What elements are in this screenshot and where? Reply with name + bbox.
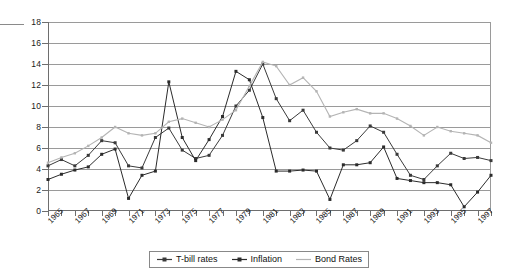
legend-marker-icon bbox=[295, 255, 312, 264]
data-point-marker bbox=[436, 181, 439, 184]
data-point-marker bbox=[114, 141, 117, 144]
data-point-marker bbox=[490, 142, 492, 144]
data-point-marker bbox=[449, 152, 452, 155]
y-axis-tick-label: 10 bbox=[31, 101, 41, 111]
data-point-marker bbox=[60, 173, 63, 176]
data-point-marker bbox=[194, 122, 196, 124]
data-point-marker bbox=[355, 163, 358, 166]
data-point-marker bbox=[409, 174, 412, 177]
data-point-marker bbox=[127, 197, 130, 200]
data-point-marker bbox=[114, 126, 116, 128]
data-point-marker bbox=[235, 109, 237, 111]
data-point-marker bbox=[47, 162, 49, 164]
data-point-marker bbox=[101, 136, 103, 138]
data-point-marker bbox=[140, 166, 143, 169]
data-point-marker bbox=[476, 191, 479, 194]
y-axis-tick-label: 6 bbox=[36, 143, 41, 153]
data-point-marker bbox=[234, 70, 237, 73]
data-point-marker bbox=[342, 163, 345, 166]
chart-container: 024681012141618 196519671969197119731975… bbox=[0, 0, 517, 275]
legend-label: Inflation bbox=[251, 254, 283, 264]
data-point-marker bbox=[422, 178, 425, 181]
data-point-marker bbox=[450, 130, 452, 132]
data-point-marker bbox=[382, 131, 385, 134]
data-point-marker bbox=[328, 198, 331, 201]
y-axis-tick-label: 8 bbox=[36, 122, 41, 132]
series-line-inflation bbox=[48, 71, 491, 206]
data-point-marker bbox=[369, 161, 372, 164]
legend-marker-icon bbox=[156, 255, 173, 264]
data-point-marker bbox=[396, 177, 399, 180]
data-point-marker bbox=[396, 117, 398, 119]
data-point-marker bbox=[74, 152, 76, 154]
data-point-marker bbox=[369, 124, 372, 127]
y-axis-tick-label: 2 bbox=[36, 185, 41, 195]
data-point-marker bbox=[114, 148, 117, 151]
data-point-marker bbox=[302, 76, 304, 78]
data-point-marker bbox=[181, 149, 184, 152]
data-point-marker bbox=[329, 115, 331, 117]
data-point-marker bbox=[262, 61, 264, 63]
data-point-marker bbox=[221, 134, 224, 137]
y-axis: 024681012141618 bbox=[0, 0, 48, 220]
data-point-marker bbox=[436, 164, 439, 167]
data-point-marker bbox=[315, 131, 318, 134]
data-point-marker bbox=[463, 157, 466, 160]
data-point-marker bbox=[248, 89, 251, 92]
data-point-marker bbox=[275, 97, 278, 100]
data-point-marker bbox=[355, 139, 358, 142]
data-point-marker bbox=[409, 125, 411, 127]
data-point-marker bbox=[288, 119, 291, 122]
data-point-marker bbox=[154, 132, 156, 134]
data-point-marker bbox=[87, 154, 90, 157]
data-point-marker bbox=[396, 153, 399, 156]
data-point-marker bbox=[328, 147, 331, 150]
data-point-marker bbox=[234, 105, 237, 108]
data-point-marker bbox=[127, 132, 129, 134]
data-point-marker bbox=[140, 174, 143, 177]
data-point-marker bbox=[356, 108, 358, 110]
data-point-marker bbox=[181, 117, 183, 119]
data-point-marker bbox=[248, 85, 250, 87]
y-axis-tick-label: 16 bbox=[31, 38, 41, 48]
legend-item-t-bill-rates[interactable]: T-bill rates bbox=[156, 254, 218, 264]
legend-item-bond-rates[interactable]: Bond Rates bbox=[295, 254, 362, 264]
data-point-marker bbox=[168, 121, 170, 123]
legend-item-inflation[interactable]: Inflation bbox=[231, 254, 283, 264]
data-point-marker bbox=[141, 134, 143, 136]
data-point-marker bbox=[409, 179, 412, 182]
data-point-marker bbox=[47, 178, 50, 181]
series-layer bbox=[48, 22, 491, 211]
data-point-marker bbox=[100, 153, 103, 156]
data-point-marker bbox=[436, 126, 438, 128]
data-point-marker bbox=[154, 136, 157, 139]
data-point-marker bbox=[490, 174, 493, 177]
data-point-marker bbox=[315, 90, 317, 92]
y-axis-tick-label: 4 bbox=[36, 164, 41, 174]
data-point-marker bbox=[261, 116, 264, 119]
data-point-marker bbox=[476, 134, 478, 136]
data-point-marker bbox=[73, 164, 76, 167]
data-point-marker bbox=[167, 127, 170, 130]
y-axis-tick-label: 18 bbox=[31, 17, 41, 27]
data-point-marker bbox=[342, 111, 344, 113]
data-point-marker bbox=[221, 118, 223, 120]
data-point-marker bbox=[476, 156, 479, 159]
data-point-marker bbox=[490, 159, 493, 162]
data-point-marker bbox=[47, 164, 50, 167]
data-point-marker bbox=[194, 159, 197, 162]
series-line-t-bill-rates bbox=[48, 64, 491, 180]
y-axis-tick-label: 14 bbox=[31, 59, 41, 69]
legend-marker-icon bbox=[231, 255, 248, 264]
data-point-marker bbox=[127, 164, 130, 167]
y-axis-tick-label: 12 bbox=[31, 80, 41, 90]
data-point-marker bbox=[87, 145, 89, 147]
data-point-marker bbox=[221, 115, 224, 118]
data-point-marker bbox=[288, 84, 290, 86]
data-point-marker bbox=[208, 154, 211, 157]
chart-legend: T-bill ratesInflationBond Rates bbox=[149, 251, 369, 268]
data-point-marker bbox=[208, 138, 211, 141]
legend-label: T-bill rates bbox=[176, 254, 218, 264]
data-point-marker bbox=[463, 132, 465, 134]
data-point-marker bbox=[208, 126, 210, 128]
